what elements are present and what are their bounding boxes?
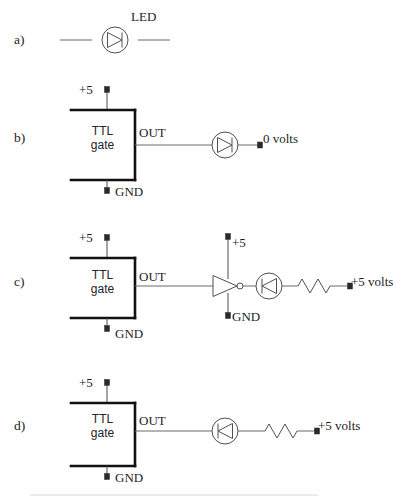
- led-circle-b: [212, 132, 238, 158]
- led-circle-d: [212, 418, 238, 444]
- circuit-c-symbols: [60, 230, 410, 340]
- output-terminal-c: [348, 283, 353, 289]
- section-label-c: c): [14, 275, 25, 289]
- ground-terminal-d: [105, 474, 110, 480]
- led-circle-c: [256, 273, 282, 299]
- inverter-triangle-c: [213, 276, 237, 297]
- section-label-d: d): [14, 419, 25, 433]
- supply-terminal-c: [105, 235, 110, 241]
- inverter-supply-terminal-c: [226, 234, 231, 240]
- inverter-ground-terminal-c: [226, 313, 231, 319]
- supply-terminal-b: [105, 87, 110, 93]
- section-label-a: a): [14, 33, 25, 47]
- led-circle-a: [102, 27, 128, 53]
- resistor-d: [265, 424, 297, 438]
- section-label-b: b): [14, 131, 25, 145]
- circuit-figure: a) LED b) +5 GND TTL gate OUT 0 volts: [0, 0, 410, 499]
- led-label-a: LED: [131, 10, 156, 23]
- inverter-bubble-c: [237, 283, 243, 289]
- circuit-a-symbols: [60, 24, 170, 56]
- ground-terminal-c: [105, 326, 110, 332]
- circuit-d-symbols: [60, 375, 390, 485]
- circuit-b-symbols: [60, 82, 310, 197]
- page-bottom-artifact: [0, 492, 410, 498]
- output-terminal-b: [258, 142, 263, 148]
- ground-terminal-b: [105, 188, 110, 194]
- supply-terminal-d: [105, 380, 110, 386]
- resistor-c: [298, 279, 330, 293]
- output-terminal-d: [315, 428, 320, 434]
